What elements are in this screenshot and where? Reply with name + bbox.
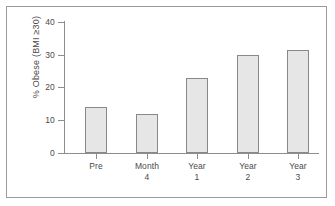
x-tick-month-4 (147, 154, 148, 159)
y-tick-label-10: 10 (15, 116, 55, 125)
x-label-year-3-line2: 3 (268, 172, 328, 183)
bar-year-1 (186, 78, 208, 153)
y-tick-30 (58, 55, 64, 56)
bar-month-4 (136, 114, 158, 153)
bar-year-2 (237, 55, 259, 153)
y-tick-0 (58, 153, 64, 154)
y-tick-label-30: 30 (15, 51, 55, 60)
y-tick-10 (58, 120, 64, 121)
bar-pre (85, 107, 107, 153)
y-tick-40 (58, 22, 64, 23)
y-tick-label-20: 20 (15, 83, 55, 92)
plot-area: % Obese (BMI ≥30) 0 10 20 30 40 Pre (0, 0, 335, 206)
x-tick-year-3 (298, 154, 299, 159)
y-tick-label-0: 0 (15, 149, 55, 158)
y-tick-label-40: 40 (15, 18, 55, 27)
x-tick-year-1 (197, 154, 198, 159)
y-axis-line (64, 21, 65, 154)
x-label-year-3-line1: Year (268, 161, 328, 172)
bar-year-3 (287, 50, 309, 153)
x-tick-pre (96, 154, 97, 159)
y-tick-20 (58, 87, 64, 88)
x-label-year-3: Year 3 (268, 161, 328, 182)
figure: % Obese (BMI ≥30) 0 10 20 30 40 Pre (0, 0, 335, 206)
x-axis-line (64, 153, 319, 154)
x-tick-year-2 (248, 154, 249, 159)
